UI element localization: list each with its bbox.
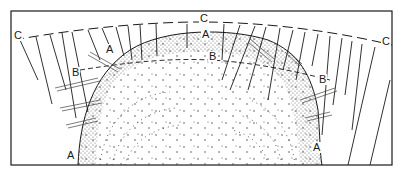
label-a-left-upper: A (105, 44, 114, 55)
label-c-top: C (199, 13, 209, 24)
diagram-figure (0, 0, 402, 174)
label-b-right: B (318, 74, 327, 85)
label-b-top: B (208, 51, 217, 62)
label-c-left: C (13, 30, 23, 41)
label-c-right: C (381, 36, 391, 47)
label-a-left-lower: A (66, 150, 75, 161)
label-a-top: A (201, 29, 210, 40)
label-b-left: B (71, 67, 80, 78)
label-a-right-lower: A (312, 142, 321, 153)
